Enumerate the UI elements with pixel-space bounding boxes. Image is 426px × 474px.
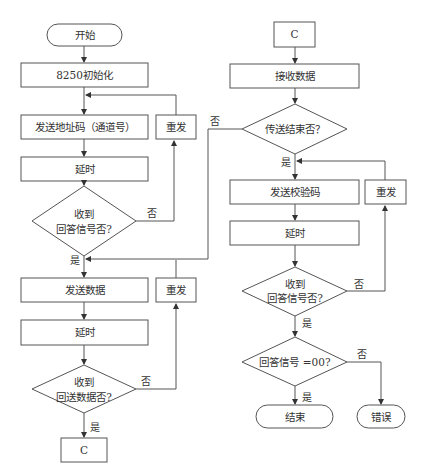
- node-start: 开始: [47, 24, 122, 46]
- svg-text:回送数据否?: 回送数据否?: [56, 391, 112, 403]
- svg-text:重发: 重发: [166, 121, 187, 133]
- node-delay-3: 延时: [230, 221, 359, 245]
- svg-text:C: C: [80, 444, 88, 456]
- node-retry-1: 重发: [156, 115, 196, 139]
- edge-label-no: 否: [147, 208, 157, 219]
- svg-text:收到: 收到: [74, 208, 94, 220]
- edge-retry-1-loop: [86, 95, 176, 115]
- edge-label-no: 否: [357, 349, 367, 360]
- edge-label-no: 否: [141, 376, 151, 387]
- node-connector-in: C: [274, 22, 315, 47]
- edge-retry-3-loop: [297, 161, 385, 180]
- node-receive-data: 接收数据: [230, 64, 359, 88]
- edge-decision-3-no: [347, 206, 385, 291]
- svg-text:发送数据: 发送数据: [65, 284, 106, 296]
- svg-text:重发: 重发: [166, 284, 187, 296]
- node-send-checksum: 发送校验码: [230, 180, 359, 204]
- edge-label-no: 否: [210, 116, 220, 127]
- svg-text:错误: 错误: [371, 411, 392, 423]
- edge-label-yes: 是: [302, 318, 312, 329]
- svg-text:传送结束否？: 传送结束否？: [265, 123, 325, 135]
- node-error: 错误: [357, 405, 405, 428]
- edge-label-no: 否: [354, 279, 364, 290]
- node-decision-1: 收到 回答信号否?: [32, 186, 136, 256]
- svg-text:收到: 收到: [285, 278, 305, 290]
- node-init: 8250初始化: [21, 63, 148, 87]
- svg-text:重发: 重发: [376, 186, 397, 198]
- svg-text:开始: 开始: [75, 29, 96, 41]
- svg-text:回答信号 =00?: 回答信号 =00?: [259, 356, 330, 368]
- node-decision-2: 收到 回送数据否?: [32, 365, 136, 413]
- svg-text:接收数据: 接收数据: [275, 70, 316, 82]
- svg-text:C: C: [290, 28, 298, 40]
- edge-label-yes: 是: [90, 422, 100, 433]
- svg-text:延时: 延时: [75, 163, 96, 175]
- node-end: 结束: [256, 405, 333, 428]
- node-decision-4: 回答信号 =00?: [242, 337, 347, 386]
- node-retry-3: 重发: [365, 180, 406, 204]
- edge-label-yes: 是: [281, 157, 291, 168]
- flowchart-canvas: 开始 8250初始化 发送地址码（通道号） 重发 延时 收到 回答信号否? 否 …: [0, 0, 426, 474]
- node-retry-2: 重发: [156, 278, 196, 302]
- node-send-data: 发送数据: [21, 278, 148, 302]
- edge-label-yes: 是: [70, 255, 80, 266]
- node-decision-end: 传送结束否？: [242, 104, 347, 154]
- node-connector-out: C: [61, 438, 107, 462]
- node-delay-2: 延时: [21, 320, 148, 345]
- svg-text:结束: 结束: [285, 411, 306, 423]
- svg-text:8250初始化: 8250初始化: [56, 69, 114, 81]
- svg-text:延时: 延时: [75, 326, 96, 338]
- node-delay-1: 延时: [21, 157, 148, 181]
- edge-label-yes: 是: [302, 392, 312, 403]
- node-send-address: 发送地址码（通道号）: [21, 115, 148, 139]
- edge-decision-4-no: [347, 362, 381, 404]
- svg-text:延时: 延时: [285, 227, 306, 239]
- svg-text:回答信号否?: 回答信号否?: [267, 292, 323, 304]
- svg-text:收到: 收到: [74, 376, 94, 388]
- svg-text:回答信号否?: 回答信号否?: [56, 223, 112, 235]
- svg-text:发送地址码（通道号）: 发送地址码（通道号）: [35, 121, 135, 133]
- svg-text:发送校验码: 发送校验码: [270, 186, 320, 198]
- node-decision-3: 收到 回答信号否?: [242, 267, 347, 316]
